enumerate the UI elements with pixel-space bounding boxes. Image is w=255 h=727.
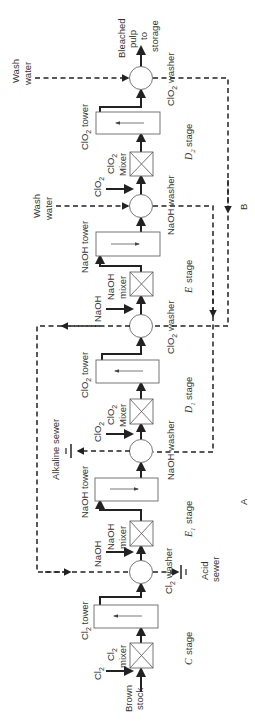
cl2-tower-label: Cl2 tower xyxy=(79,601,92,640)
svg-text:Brown: Brown xyxy=(123,685,134,712)
svg-text:ClO2 washer: ClO2 washer xyxy=(165,52,178,106)
svg-text:Acid: Acid xyxy=(199,562,210,580)
svg-text:water: water xyxy=(22,62,33,86)
acid-sewer-symbol xyxy=(181,565,186,579)
svg-text:NaOH washer: NaOH washer xyxy=(165,175,176,235)
svg-text:Mixer: Mixer xyxy=(117,153,128,176)
svg-text:mixer: mixer xyxy=(117,526,128,549)
svg-text:Bleached: Bleached xyxy=(116,18,127,58)
tower-naoh-e xyxy=(96,232,160,256)
naoh-washer-label-e: NaOH washer xyxy=(165,175,176,235)
svg-text:mixer: mixer xyxy=(117,276,128,299)
svg-text:E1: E1 xyxy=(183,527,197,538)
svg-text:Wash: Wash xyxy=(10,59,21,83)
e-stage-label: E stage xyxy=(183,260,194,294)
alkaline-sewer-label: Alkaline sewer xyxy=(50,419,61,480)
svg-text:ClO2 tower: ClO2 tower xyxy=(79,352,92,398)
d1-stage-label: D1 stage xyxy=(183,377,197,414)
alkaline-sewer-symbol xyxy=(66,444,71,458)
clo2-mixer-label-d1: ClO2 Mixer xyxy=(105,404,128,427)
c-stage-label: C stage xyxy=(183,632,194,665)
tower-clo2-d2 xyxy=(96,112,160,134)
washer-cl2 xyxy=(130,561,153,584)
svg-text:E: E xyxy=(183,287,194,294)
clo2-washer-label-d1: ClO2 washer xyxy=(165,300,178,354)
tower-naoh-e1 xyxy=(95,478,158,501)
svg-text:mixer: mixer xyxy=(117,645,128,668)
svg-text:NaOH: NaOH xyxy=(92,295,103,322)
naoh-washer-label-e1: NaOH washer xyxy=(165,420,176,480)
naoh-input-label-e: NaOH xyxy=(92,295,103,322)
svg-text:Cl2: Cl2 xyxy=(92,667,105,680)
svg-text:Wash: Wash xyxy=(31,194,42,218)
svg-text:Cl2 tower: Cl2 tower xyxy=(79,601,92,640)
naoh-input-label-e1: NaOH xyxy=(92,540,103,567)
svg-text:to: to xyxy=(138,32,149,40)
svg-text:NaOH tower: NaOH tower xyxy=(79,466,90,518)
wash-water-label-d2: Wash water xyxy=(10,59,33,86)
svg-text:NaOH tower: NaOH tower xyxy=(79,221,90,273)
naoh-mixer-label-e: NaOH mixer xyxy=(105,273,128,300)
clo2-tower-label-d1: ClO2 tower xyxy=(79,352,92,398)
tower-clo2-d1 xyxy=(96,360,159,383)
cl2-mixer-label: Cl2 mixer xyxy=(105,645,128,668)
svg-text:sewer: sewer xyxy=(210,557,221,582)
svg-text:C: C xyxy=(183,658,194,665)
washer-clo2-d1 xyxy=(130,315,153,338)
clo2-mixer-label-d2: ClO2 Mixer xyxy=(105,153,128,176)
naoh-tower-label-e1: NaOH tower xyxy=(79,466,90,518)
loop-b-label: B xyxy=(238,204,249,210)
naoh-mixer-label-e1: NaOH mixer xyxy=(105,523,128,550)
mixer-clo2-d2 xyxy=(130,152,153,176)
bleach-plant-diagram: Brown stock Cl2 Cl2 mixer Cl2 tower C st… xyxy=(0,0,255,727)
svg-text:A: A xyxy=(238,498,249,505)
svg-text:NaOH: NaOH xyxy=(92,540,103,567)
washer-naoh-e1 xyxy=(130,440,153,463)
acid-sewer-label: Acid sewer xyxy=(199,557,221,582)
svg-text:Alkaline sewer: Alkaline sewer xyxy=(50,419,61,480)
d2-stage-label: D2 stage xyxy=(183,124,197,161)
mixer-clo2-d1 xyxy=(130,399,153,424)
svg-text:NaOH: NaOH xyxy=(105,273,116,300)
svg-text:stage: stage xyxy=(183,124,194,147)
mixer-cl2 xyxy=(130,643,153,668)
e-filtrate-line xyxy=(153,206,213,452)
cl2-washer-label: Cl2 washer xyxy=(163,548,176,594)
tower-cl2 xyxy=(94,605,158,628)
svg-text:stock: stock xyxy=(134,688,145,710)
svg-text:stage: stage xyxy=(183,377,194,400)
svg-text:stage: stage xyxy=(183,632,194,655)
svg-text:stage: stage xyxy=(183,260,194,283)
mixer-naoh-e xyxy=(130,272,153,296)
svg-text:storage: storage xyxy=(149,20,160,52)
washer-clo2-d2 xyxy=(130,67,153,90)
svg-text:Mixer: Mixer xyxy=(117,404,128,427)
naoh-tower-label-e: NaOH tower xyxy=(79,221,90,273)
svg-text:stage: stage xyxy=(183,501,194,524)
svg-text:D2: D2 xyxy=(183,149,197,161)
svg-text:water: water xyxy=(43,197,54,221)
bleached-pulp-output-label: Bleached pulp to storage xyxy=(116,18,160,58)
wash-water-label-e: Wash water xyxy=(31,194,54,221)
clo2-input-label-d2: ClO2 xyxy=(92,177,105,197)
svg-text:pulp: pulp xyxy=(127,30,138,48)
washer-naoh-e xyxy=(130,195,153,218)
svg-text:ClO2: ClO2 xyxy=(92,177,105,197)
e1-stage-label: E1 stage xyxy=(183,501,197,538)
svg-text:NaOH washer: NaOH washer xyxy=(165,420,176,480)
svg-text:ClO2: ClO2 xyxy=(92,422,105,442)
chemical-input-arrows xyxy=(106,189,132,671)
cl2-input-label: Cl2 xyxy=(92,667,105,680)
svg-text:D1: D1 xyxy=(183,402,197,414)
mixer-naoh-e1 xyxy=(130,521,153,546)
svg-text:ClO2 washer: ClO2 washer xyxy=(165,300,178,354)
svg-text:Cl2 washer: Cl2 washer xyxy=(163,548,176,594)
svg-text:B: B xyxy=(238,204,249,210)
clo2-washer-label-d2: ClO2 washer xyxy=(165,52,178,106)
brown-stock-label: Brown stock xyxy=(123,685,145,712)
svg-text:NaOH: NaOH xyxy=(105,523,116,550)
clo2-input-label-d1: ClO2 xyxy=(92,422,105,442)
loop-a-label: A xyxy=(238,498,249,505)
svg-text:ClO2 tower: ClO2 tower xyxy=(79,104,92,150)
clo2-tower-label-d2: ClO2 tower xyxy=(79,104,92,150)
